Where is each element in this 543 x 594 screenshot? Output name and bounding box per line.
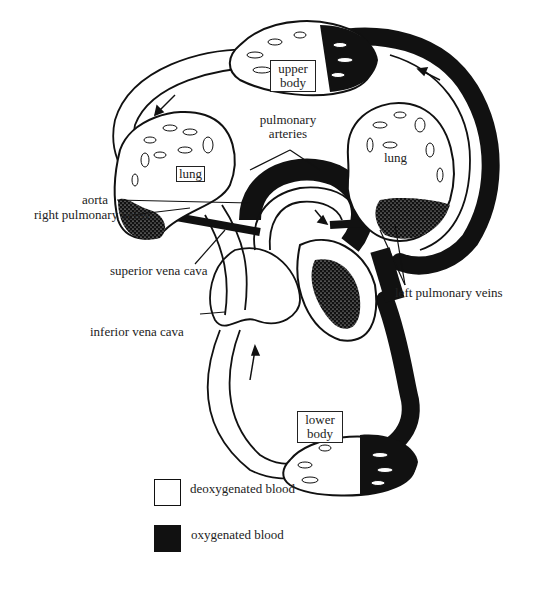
right-pulmonary-veins-label: right pulmonary veins	[34, 208, 149, 222]
legend-swatch-deoxygenated	[154, 479, 181, 506]
upper-body-line2: body	[274, 76, 312, 90]
left-pulmonary-veins-label: left pulmonary veins	[395, 286, 503, 300]
lower-body-line1: lower	[301, 413, 339, 427]
legend-label-deoxygenated: deoxygenated blood	[190, 482, 295, 496]
lower-body-capillaries	[283, 435, 418, 496]
pulmonary-arteries-line2: arteries	[253, 127, 323, 141]
left-lung-label: lung	[176, 166, 205, 182]
right-lung-label: lung	[381, 150, 410, 166]
superior-vena-cava-label: superior vena cava	[110, 264, 207, 278]
oxygenated-vessels	[165, 37, 491, 460]
lower-body-label: lower body	[297, 411, 343, 443]
lower-body-line2: body	[301, 427, 339, 441]
right-lung-capillaries	[348, 103, 454, 241]
upper-body-line1: upper	[274, 62, 312, 76]
legend-label-oxygenated: oxygenated blood	[191, 528, 284, 542]
legend-swatch-oxygenated	[154, 525, 181, 552]
pulmonary-arteries-label: pulmonary arteries	[253, 113, 323, 141]
pulmonary-arteries-line1: pulmonary	[253, 113, 323, 127]
aorta-label: aorta	[82, 193, 108, 207]
upper-body-label: upper body	[270, 60, 316, 92]
inferior-vena-cava-label: inferior vena cava	[90, 325, 184, 339]
